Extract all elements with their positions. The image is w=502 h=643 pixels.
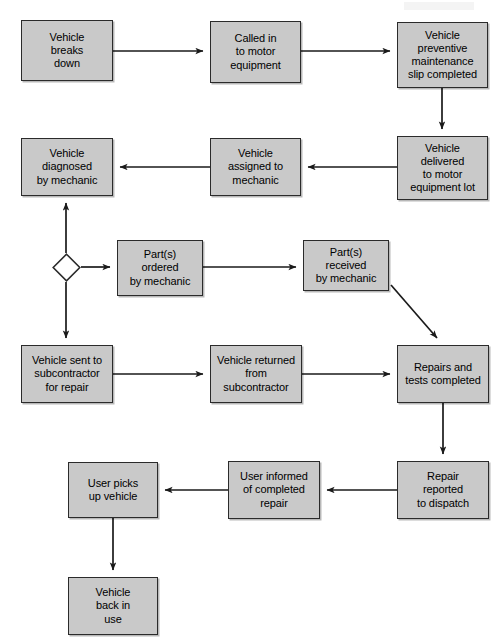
process-node[interactable]: Vehicle breaks down xyxy=(21,20,113,81)
process-node[interactable]: Vehicle back in use xyxy=(68,577,158,635)
process-node[interactable]: Vehicle sent to subcontractor for repair xyxy=(21,345,113,403)
process-node[interactable]: Vehicle diagnosed by mechanic xyxy=(21,138,113,196)
process-node-label: Vehicle preventive maintenance slip comp… xyxy=(406,29,479,82)
flowchart-canvas: Vehicle breaks downCalled in to motor eq… xyxy=(0,0,502,643)
process-node-label: Vehicle delivered to motor equipment lot xyxy=(408,142,477,195)
process-node-label: Part(s) ordered by mechanic xyxy=(128,248,193,288)
process-node[interactable]: Vehicle delivered to motor equipment lot xyxy=(397,136,488,200)
process-node-label: Part(s) received by mechanic xyxy=(314,246,379,286)
process-node-label: Vehicle back in use xyxy=(94,586,133,626)
process-node[interactable]: User picks up vehicle xyxy=(68,462,158,518)
process-node[interactable]: Repairs and tests completed xyxy=(397,345,489,403)
process-node[interactable]: Vehicle preventive maintenance slip comp… xyxy=(397,22,488,88)
decision-diamond[interactable] xyxy=(52,253,81,282)
process-node[interactable]: Repair reported to dispatch xyxy=(397,461,489,519)
process-node-label: Called in to motor equipment xyxy=(228,32,282,72)
process-node[interactable]: Vehicle returned from subcontractor xyxy=(210,345,302,403)
process-node-label: User picks up vehicle xyxy=(86,477,140,503)
flow-arrow xyxy=(391,285,437,338)
decision-shape xyxy=(53,254,80,281)
process-node-label: Repair reported to dispatch xyxy=(415,470,471,510)
process-node[interactable]: Called in to motor equipment xyxy=(210,21,301,83)
process-node-label: Vehicle breaks down xyxy=(48,31,87,71)
process-node-label: Vehicle assigned to mechanic xyxy=(226,147,285,187)
scan-artifact xyxy=(404,2,474,10)
process-node-label: Vehicle sent to subcontractor for repair xyxy=(30,354,104,394)
process-node-label: Repairs and tests completed xyxy=(403,361,483,387)
flowchart-edges xyxy=(0,0,502,643)
process-node[interactable]: Vehicle assigned to mechanic xyxy=(210,138,301,196)
process-node[interactable]: Part(s) ordered by mechanic xyxy=(117,240,203,296)
process-node[interactable]: Part(s) received by mechanic xyxy=(303,240,389,291)
process-node-label: User informed of completed repair xyxy=(238,470,310,510)
process-node-label: Vehicle diagnosed by mechanic xyxy=(35,147,100,187)
process-node-label: Vehicle returned from subcontractor xyxy=(215,354,297,394)
process-node[interactable]: User informed of completed repair xyxy=(228,461,320,519)
